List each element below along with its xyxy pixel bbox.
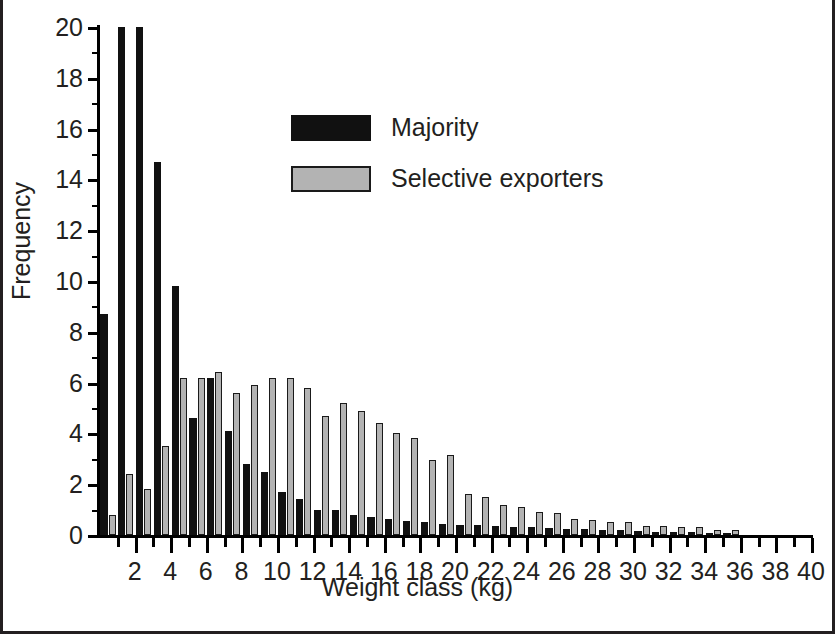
x-tick — [277, 538, 280, 553]
bar-majority — [581, 529, 588, 535]
bar-majority — [136, 27, 143, 535]
bar-majority — [172, 286, 179, 535]
x-tick — [740, 538, 743, 553]
bar-group — [740, 27, 758, 535]
bar-group — [526, 27, 544, 535]
bar-majority — [278, 492, 285, 535]
bar-group — [633, 27, 651, 535]
bar-group — [562, 27, 580, 535]
bar-group — [152, 27, 170, 535]
y-tick-label: 0 — [69, 521, 83, 550]
x-tick — [686, 538, 689, 547]
bar-majority — [510, 527, 517, 535]
bar-group — [170, 27, 188, 535]
x-tick-label: 34 — [690, 557, 718, 586]
y-tick-label: 16 — [55, 114, 83, 143]
bar-group — [402, 27, 420, 535]
bar-group — [330, 27, 348, 535]
bar-selective-exporters — [215, 372, 222, 535]
y-tick — [92, 256, 99, 258]
x-tick-label: 36 — [726, 557, 754, 586]
x-tick — [241, 538, 244, 553]
x-tick-label: 38 — [761, 557, 789, 586]
x-tick — [508, 538, 511, 547]
bar-selective-exporters — [536, 512, 543, 535]
x-tick — [526, 538, 529, 553]
bar-majority — [332, 510, 339, 535]
y-tick — [92, 510, 99, 512]
y-tick-label: 20 — [55, 13, 83, 42]
bar-selective-exporters — [589, 520, 596, 535]
x-tick — [704, 538, 707, 553]
bar-majority — [706, 533, 713, 535]
x-tick — [170, 538, 173, 553]
bar-selective-exporters — [287, 378, 294, 535]
y-tick — [88, 179, 99, 182]
x-tick — [793, 538, 796, 547]
x-tick-label: 8 — [234, 557, 248, 586]
y-tick — [88, 484, 99, 487]
bar-majority — [723, 533, 730, 535]
x-tick — [135, 538, 138, 553]
bar-group — [259, 27, 277, 535]
x-tick — [651, 538, 654, 547]
y-axis-title: Frequency — [7, 182, 36, 300]
x-tick-label: 2 — [128, 557, 142, 586]
bar-majority — [314, 510, 321, 535]
bar-selective-exporters — [625, 522, 632, 535]
x-tick — [206, 538, 209, 553]
bar-selective-exporters — [607, 522, 614, 535]
x-tick — [152, 538, 155, 547]
x-tick — [437, 538, 440, 547]
bar-group — [99, 27, 117, 535]
bar-selective-exporters — [162, 446, 169, 535]
bar-majority — [154, 162, 161, 535]
x-tick-label: 4 — [163, 557, 177, 586]
y-tick — [92, 52, 99, 54]
bar-majority — [225, 431, 232, 535]
x-tick — [597, 538, 600, 553]
y-tick-label: 18 — [55, 63, 83, 92]
bar-group — [793, 27, 811, 535]
legend-item-majority: Majority — [291, 113, 604, 142]
bar-group — [651, 27, 669, 535]
bar-majority — [350, 515, 357, 535]
legend-item-selective-exporters: Selective exporters — [291, 164, 604, 193]
bar-group — [491, 27, 509, 535]
x-tick — [259, 538, 262, 547]
x-tick — [402, 538, 405, 547]
bar-group — [473, 27, 491, 535]
y-tick — [88, 129, 99, 132]
bar-selective-exporters — [571, 519, 578, 536]
bar-group — [241, 27, 259, 535]
bar-selective-exporters — [322, 416, 329, 535]
y-tick — [88, 332, 99, 335]
bar-selective-exporters — [269, 378, 276, 535]
x-tick — [580, 538, 583, 547]
x-tick-label: 30 — [619, 557, 647, 586]
x-tick — [188, 538, 191, 547]
x-tick — [455, 538, 458, 553]
x-tick — [419, 538, 422, 553]
bar-majority — [563, 529, 570, 535]
bar-majority — [100, 314, 107, 535]
plot-area: 02468101214161820 2468101214161820222426… — [99, 27, 811, 535]
bar-group — [135, 27, 153, 535]
x-tick-label: 16 — [370, 557, 398, 586]
x-tick — [295, 538, 298, 547]
legend-label: Selective exporters — [391, 164, 604, 193]
y-tick — [92, 103, 99, 105]
bar-group — [384, 27, 402, 535]
bar-majority — [439, 524, 446, 535]
bar-majority — [367, 517, 374, 535]
bar-group — [295, 27, 313, 535]
x-tick — [224, 538, 227, 547]
bar-majority — [189, 418, 196, 535]
y-tick — [92, 205, 99, 207]
bar-selective-exporters — [198, 378, 205, 535]
bar-selective-exporters — [482, 497, 489, 535]
bar-group — [348, 27, 366, 535]
y-tick-label: 12 — [55, 216, 83, 245]
bar-group — [224, 27, 242, 535]
x-tick — [722, 538, 725, 547]
